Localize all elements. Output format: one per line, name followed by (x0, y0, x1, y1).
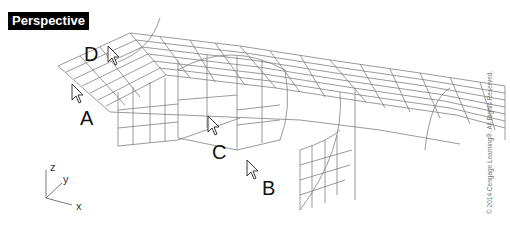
label-c: C (212, 142, 226, 162)
axis-y-label: y (63, 174, 69, 185)
copyright-notice: © 2014 Cengage Learning®. All Rights Res… (486, 71, 493, 214)
perspective-viewport[interactable]: Perspective D A C B z y x © 2014 Cengage… (0, 0, 510, 226)
label-d: D (84, 44, 98, 64)
axis-x-label: x (76, 201, 82, 212)
label-a: A (80, 108, 93, 128)
axis-z-label: z (50, 162, 56, 173)
viewport-title[interactable]: Perspective (8, 12, 89, 30)
label-b: B (262, 178, 275, 198)
wireframe-surface (0, 0, 510, 226)
